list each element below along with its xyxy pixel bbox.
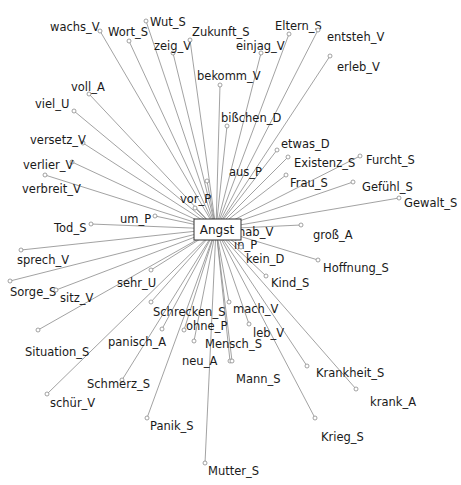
graph-node[interactable]: mach_V <box>227 300 279 316</box>
node-label: Mensch_S <box>205 337 262 351</box>
node-dot[interactable] <box>247 322 251 326</box>
graph-node[interactable]: Schmerz_S <box>87 377 150 391</box>
graph-node[interactable]: Panik_S <box>145 416 194 433</box>
node-dot[interactable] <box>275 148 279 152</box>
graph-node[interactable]: sprech_V <box>17 248 69 267</box>
node-dot[interactable] <box>284 173 288 177</box>
node-dot[interactable] <box>351 180 355 184</box>
graph-node[interactable]: Sorge_S <box>8 279 56 299</box>
node-label: krank_A <box>370 395 416 409</box>
node-dot[interactable] <box>149 268 153 272</box>
graph-node[interactable]: erleb_V <box>328 54 380 74</box>
node-dot[interactable] <box>45 392 49 396</box>
center-node-label: Angst <box>200 223 235 237</box>
node-label: verlier_V <box>23 158 74 172</box>
node-dot[interactable] <box>316 258 320 262</box>
graph-node[interactable]: Gewalt_S <box>397 196 457 210</box>
graph-node[interactable]: Krieg_S <box>313 416 364 444</box>
node-dot[interactable] <box>397 196 401 200</box>
graph-node[interactable]: Schrecken_S <box>149 300 225 319</box>
graph-node[interactable]: bißchen_D <box>221 111 281 128</box>
graph-node[interactable]: schür_V <box>45 392 95 410</box>
node-label: Existenz_S <box>294 156 355 170</box>
graph-node[interactable]: einjag_V <box>236 39 285 55</box>
graph-node[interactable]: etwas_D <box>275 137 330 152</box>
node-label: entsteh_V <box>327 30 384 44</box>
node-dot[interactable] <box>145 416 149 420</box>
graph-node[interactable]: Hoffnung_S <box>316 258 389 275</box>
node-dot[interactable] <box>36 328 40 332</box>
node-dot[interactable] <box>89 222 93 226</box>
node-dot[interactable] <box>153 214 157 218</box>
node-dot[interactable] <box>54 288 58 292</box>
node-dot[interactable] <box>230 359 234 363</box>
graph-node[interactable]: Situation_S <box>25 328 89 359</box>
graph-node[interactable]: groß_A <box>299 223 353 242</box>
node-dot[interactable] <box>305 364 309 368</box>
node-dot[interactable] <box>218 83 222 87</box>
node-label: um_P <box>120 212 151 226</box>
node-dot[interactable] <box>313 416 317 420</box>
node-dot[interactable] <box>160 327 164 331</box>
node-dot[interactable] <box>239 245 243 249</box>
node-dot[interactable] <box>127 39 131 43</box>
graph-node[interactable]: Gefühl_S <box>351 180 413 194</box>
node-dot[interactable] <box>328 54 332 58</box>
graph-node[interactable]: krank_A <box>354 387 416 409</box>
node-dot[interactable] <box>192 339 196 343</box>
node-dot[interactable] <box>19 248 23 252</box>
node-dot[interactable] <box>286 155 290 159</box>
node-dot[interactable] <box>358 154 362 158</box>
graph-node[interactable]: voll_A <box>71 80 105 96</box>
graph-node[interactable]: Existenz_S <box>286 155 355 170</box>
graph-node[interactable]: Furcht_S <box>358 153 415 167</box>
node-dot[interactable] <box>43 173 47 177</box>
graph-node[interactable]: Mensch_S <box>192 337 262 351</box>
graph-node[interactable]: panisch_A <box>108 327 166 349</box>
node-dot[interactable] <box>227 300 231 304</box>
graph-node[interactable]: verlier_V <box>23 158 74 172</box>
nodes-layer: wachs_VWort_SWut_Szeig_VZukunft_Sbekomm_… <box>8 15 457 478</box>
graph-node[interactable]: Mutter_S <box>203 461 259 478</box>
node-dot[interactable] <box>8 279 12 283</box>
node-dot[interactable] <box>264 274 268 278</box>
graph-node[interactable]: Kind_S <box>264 274 309 290</box>
node-dot[interactable] <box>299 223 303 227</box>
graph-node[interactable]: sitz_V <box>54 288 93 305</box>
graph-node[interactable]: Mann_S <box>230 359 281 386</box>
node-dot[interactable] <box>354 387 358 391</box>
graph-node[interactable]: Frau_S <box>284 173 328 190</box>
graph-node[interactable]: vor_P <box>180 192 211 210</box>
node-label: schür_V <box>50 396 95 410</box>
node-label: Eltern_S <box>275 19 322 33</box>
graph-node[interactable]: viel_U <box>35 97 76 113</box>
node-dot[interactable] <box>72 109 76 113</box>
graph-node[interactable]: verbreit_V <box>22 173 81 196</box>
graph-node[interactable]: versetz_V <box>30 133 86 147</box>
graph-node[interactable]: zeig_V <box>154 39 191 55</box>
node-dot[interactable] <box>203 461 207 465</box>
center-node[interactable]: Angst <box>194 219 241 240</box>
graph-node[interactable]: sehr_U <box>117 268 156 290</box>
node-label: sitz_V <box>60 291 93 305</box>
node-label: sehr_U <box>117 276 156 290</box>
graph-node[interactable]: Wut_S <box>144 15 186 29</box>
node-dot[interactable] <box>193 206 197 210</box>
graph-node[interactable]: Eltern_S <box>275 19 322 36</box>
node-label: panisch_A <box>108 335 166 349</box>
graph-node[interactable]: Krankheit_S <box>305 364 384 380</box>
graph-node[interactable]: Wort_S <box>108 25 148 43</box>
node-dot[interactable] <box>144 19 148 23</box>
node-label: verbreit_V <box>22 182 81 196</box>
graph-node[interactable]: entsteh_V <box>316 28 384 44</box>
graph-node[interactable]: ohne_P <box>182 319 227 333</box>
node-dot[interactable] <box>316 28 320 32</box>
graph-node[interactable]: um_P <box>120 212 157 226</box>
node-dot[interactable] <box>205 179 209 183</box>
node-dot[interactable] <box>149 300 153 304</box>
graph-node[interactable]: Tod_S <box>53 221 93 235</box>
graph-node[interactable]: neu_A <box>182 354 232 368</box>
graph-node[interactable]: bekomm_V <box>197 69 261 87</box>
node-label: neu_A <box>182 354 217 368</box>
graph-node[interactable]: wachs_V <box>50 20 102 34</box>
